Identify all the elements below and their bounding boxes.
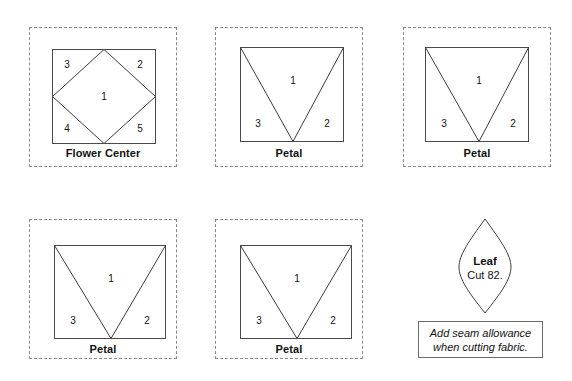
petal-1-diagram: 1 2 3 [215,27,363,152]
region-number-2: 2 [330,315,336,326]
seam-allowance-note: Add seam allowance when cutting fabric. [418,321,543,358]
pattern-piece-flower-center: 1 2 3 4 5 Flower Center [29,27,177,167]
region-number-4: 4 [64,123,70,134]
region-number-2: 2 [144,315,150,326]
leaf-cut-count: Cut 82. [449,269,521,282]
note-line-1: Add seam allowance [430,326,532,340]
piece-label-petal-2: Petal [403,147,551,160]
leaf-title: Leaf [449,255,521,268]
pattern-sheet: 1 2 3 4 5 Flower Center 1 2 3 Petal 1 [0,0,572,381]
flower-center-diagram: 1 2 3 4 5 [29,27,177,152]
petal-2-diagram: 1 2 3 [403,27,551,152]
pattern-piece-petal-1: 1 2 3 Petal [215,27,363,167]
region-number-3: 3 [256,315,262,326]
piece-label-petal-1: Petal [215,147,363,160]
region-number-5: 5 [137,123,143,134]
petal-4-diagram: 1 2 3 [215,219,363,349]
region-number-1: 1 [101,91,107,102]
region-number-3: 3 [64,59,70,70]
region-number-1: 1 [290,75,296,86]
piece-label-petal-3: Petal [29,343,177,356]
region-number-2: 2 [324,118,330,129]
note-line-2: when cutting fabric. [433,340,528,354]
piece-label-petal-4: Petal [215,343,363,356]
petal-3-diagram: 1 2 3 [29,219,177,349]
region-number-1: 1 [476,75,482,86]
pattern-piece-petal-4: 1 2 3 Petal [215,219,363,359]
region-number-1: 1 [108,273,114,284]
pattern-piece-petal-3: 1 2 3 Petal [29,219,177,359]
pattern-piece-petal-2: 1 2 3 Petal [403,27,551,167]
piece-label-flower-center: Flower Center [29,147,177,160]
region-number-3: 3 [441,118,447,129]
region-number-2: 2 [137,59,143,70]
pattern-piece-leaf: Leaf Cut 82. [449,217,521,315]
region-number-2: 2 [510,118,516,129]
region-number-3: 3 [70,315,76,326]
region-number-3: 3 [255,118,261,129]
region-number-1: 1 [294,273,300,284]
